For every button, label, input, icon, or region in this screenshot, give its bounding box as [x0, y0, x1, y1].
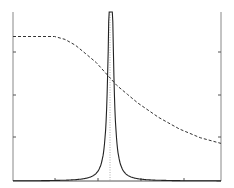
phase-curve	[13, 37, 221, 144]
axis-ticks	[13, 52, 221, 181]
chart-svg	[0, 0, 234, 188]
resonance-chart	[0, 0, 234, 188]
amplitude-curve	[13, 12, 221, 181]
